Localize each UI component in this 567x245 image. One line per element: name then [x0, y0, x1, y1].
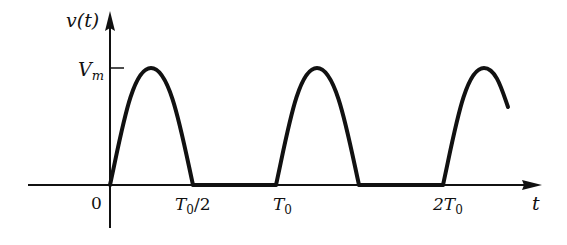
tick-label-two-period: 2T0	[432, 194, 463, 217]
amplitude-label: Vm	[78, 58, 104, 83]
pulse-1	[110, 68, 193, 185]
tick-label-period: T0	[273, 194, 292, 217]
y-axis-label: v(t)	[66, 9, 99, 31]
waveform-diagram: v(t) Vm 0 T0/2 T0 2T0 t	[0, 0, 567, 245]
v-axis-arrow-icon	[105, 11, 115, 31]
t-axis-arrow-icon	[522, 180, 542, 190]
pulse-2	[276, 68, 359, 185]
tick-label-half-period: T0/2	[175, 194, 211, 217]
tick-label-origin: 0	[91, 193, 102, 213]
x-axis-label: t	[532, 192, 540, 214]
pulse-3-partial	[443, 68, 508, 185]
